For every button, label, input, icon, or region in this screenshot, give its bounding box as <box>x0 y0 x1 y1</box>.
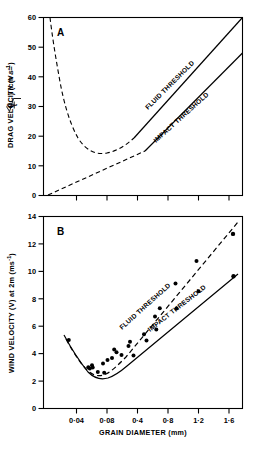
data-point <box>153 315 157 319</box>
xtick-04: 0·4 <box>132 416 144 425</box>
data-point <box>102 371 106 375</box>
data-point <box>128 340 132 344</box>
x-axis-label: GRAIN DIAMETER (mm) <box>99 428 187 437</box>
data-point <box>120 353 124 357</box>
y-a-units: ) (cm s <box>6 70 15 95</box>
panel-b-x-ticks <box>77 409 230 414</box>
data-point <box>195 259 199 263</box>
data-point <box>145 339 149 343</box>
xtick-004: 0·04 <box>69 416 85 425</box>
rho-denominator: ρ <box>4 102 13 107</box>
panel-a-fluid-threshold-label: FLUID THRESHOLD <box>144 59 196 111</box>
ytick-a-50: 50 <box>28 43 36 52</box>
ytick-a-10: 10 <box>28 162 36 171</box>
panel-a: 60 50 40 30 20 10 0 A <box>28 13 243 200</box>
ytick-a-60: 60 <box>28 13 36 22</box>
data-point <box>158 306 162 310</box>
panel-a-fluid-threshold-solid <box>134 18 243 139</box>
panel-a-letter: A <box>57 27 64 38</box>
ytick-a-30: 30 <box>28 102 36 111</box>
y-b-main: WIND VELOCITY (V) at 2m (ms <box>7 261 16 373</box>
panel-b-fluid-threshold-label: FLUID THRESHOLD <box>118 281 172 330</box>
data-point <box>127 344 131 348</box>
ytick-a-0: 0 <box>32 191 36 200</box>
data-point <box>91 366 95 370</box>
xtick-08: 0·8 <box>163 416 174 425</box>
panel-a-x-ticks <box>77 196 230 201</box>
svg-text:WIND VELOCITY (V) at 2m (ms-1): WIND VELOCITY (V) at 2m (ms-1) <box>6 253 16 373</box>
xtick-008: 0·08 <box>100 416 115 425</box>
ytick-b-14: 14 <box>28 212 37 221</box>
panel-b-frame <box>44 217 243 409</box>
panel-b-y-axis-label: WIND VELOCITY (V) at 2m (ms-1) <box>6 253 16 373</box>
xtick-12: 1·2 <box>193 416 204 425</box>
y-b-close: ) <box>7 253 16 256</box>
ytick-a-40: 40 <box>28 73 36 82</box>
threshold-velocity-figure: 60 50 40 30 20 10 0 A <box>0 0 257 458</box>
data-point <box>174 282 178 286</box>
data-point <box>101 361 105 365</box>
ytick-b-10: 10 <box>28 267 36 276</box>
panel-a-y-ticklabels: 60 50 40 30 20 10 0 <box>28 13 36 200</box>
data-point <box>67 338 71 342</box>
data-point <box>96 370 100 374</box>
panel-b-x-ticklabels: 0·04 0·08 0·4 0·8 1·2 1·6 <box>69 416 234 425</box>
ytick-b-4: 4 <box>32 349 37 358</box>
panel-b-y-ticklabels: 14 12 10 8 6 4 2 0 <box>28 212 37 413</box>
panel-b: 14 12 10 8 6 4 2 0 0·04 0·08 0·4 <box>28 212 243 425</box>
panel-a-y-ticks <box>39 18 44 196</box>
ytick-b-12: 12 <box>28 240 36 249</box>
data-point <box>142 332 146 336</box>
ytick-a-20: 20 <box>28 132 36 141</box>
y-a-close: ) <box>6 62 15 65</box>
ytick-b-6: 6 <box>32 322 36 331</box>
panel-b-y-ticks <box>39 217 44 409</box>
data-point <box>106 358 110 362</box>
ytick-b-8: 8 <box>32 295 36 304</box>
ytick-b-2: 2 <box>32 377 36 386</box>
panel-a-impact-threshold-dashed <box>48 151 145 195</box>
data-point <box>132 354 136 358</box>
ytick-b-0: 0 <box>32 404 36 413</box>
figure-container: 60 50 40 30 20 10 0 A <box>0 0 257 458</box>
data-point <box>110 356 114 360</box>
panel-a-frame <box>44 18 243 196</box>
data-point <box>115 350 119 354</box>
data-point <box>231 274 235 278</box>
panel-b-letter: B <box>57 226 64 237</box>
xtick-16: 1·6 <box>224 416 235 425</box>
data-point <box>231 232 235 236</box>
